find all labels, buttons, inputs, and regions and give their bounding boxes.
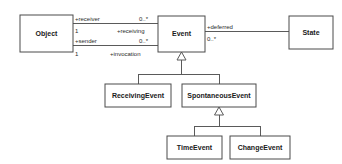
class-label-object: Object [36,30,58,38]
diagram-canvas: Object Event State ReceivingEvent Sponta… [0,0,342,164]
multiplicity-label-receiving: 0..* [139,16,149,22]
class-label-event: Event [172,30,192,37]
role-label-sender: +sender [75,38,97,44]
class-box-object[interactable]: Object [20,15,73,52]
role-label-deferred: +deferred [207,24,233,30]
multiplicity-label-receiver-source: 1 [75,28,79,34]
class-box-spontaneous-event[interactable]: SpontaneousEvent [182,84,256,107]
role-label-invocation: +invocation [110,51,141,57]
class-label-state: State [302,29,319,36]
class-box-time-event[interactable]: TimeEvent [167,136,222,159]
class-box-receiving-event[interactable]: ReceivingEvent [105,84,171,107]
role-label-receiving: +receiving [117,28,145,34]
uml-class-diagram: Object Event State ReceivingEvent Sponta… [0,0,342,164]
role-label-receiver: +receiver [75,16,100,22]
generalization-triangle-event [177,52,186,60]
multiplicity-label-sender-source: 1 [75,51,79,57]
generalization-event [138,52,219,84]
class-box-event[interactable]: Event [158,16,205,52]
class-label-time-event: TimeEvent [177,144,213,151]
generalization-triangle-spontaneous-event [215,107,224,115]
class-box-state[interactable]: State [289,16,333,49]
multiplicity-label-deferred: 0..* [207,36,217,42]
class-box-change-event[interactable]: ChangeEvent [230,136,290,159]
generalization-spontaneous-event [195,107,261,136]
class-label-receiving-event: ReceivingEvent [112,92,165,100]
multiplicity-label-invocation: 0..* [139,38,149,44]
class-label-spontaneous-event: SpontaneousEvent [187,92,251,100]
class-label-change-event: ChangeEvent [238,144,283,152]
